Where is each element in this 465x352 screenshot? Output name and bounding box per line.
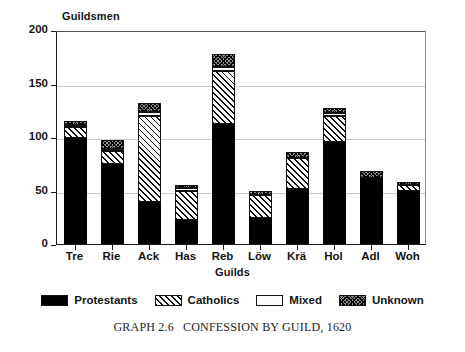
x-axis-tick-label-woh: Woh	[383, 250, 433, 262]
legend-label-mixed: Mixed	[289, 294, 322, 306]
bar-segment-protestants	[286, 189, 309, 244]
bar-segment-protestants	[138, 202, 161, 244]
bar-segment-unknown	[101, 140, 124, 149]
bar-segment-mixed	[212, 67, 235, 70]
bar-segment-unknown	[360, 171, 383, 177]
bar-segment-catholics	[101, 151, 124, 164]
bar-hol[interactable]	[323, 108, 346, 244]
bar-segment-catholics	[323, 116, 346, 143]
y-axis-tick-label: 200	[8, 23, 48, 35]
bar-segment-mixed	[101, 149, 124, 151]
bar-segment-protestants	[175, 220, 198, 244]
y-axis-tick-label: 50	[8, 184, 48, 196]
y-axis-tick-label: 150	[8, 77, 48, 89]
y-axis-tick-label: 0	[8, 237, 48, 249]
legend-label-catholics: Catholics	[188, 294, 240, 306]
bar-segment-mixed	[175, 188, 198, 190]
bar-segment-mixed	[138, 112, 161, 115]
bar-segment-mixed	[64, 125, 87, 127]
bar-segment-unknown	[64, 121, 87, 125]
bar-adl[interactable]	[360, 171, 383, 244]
figure-caption: GRAPH 2.6CONFESSION BY GUILD, 1620	[0, 320, 465, 335]
bar-reb[interactable]	[212, 54, 235, 244]
bar-segment-protestants	[212, 124, 235, 244]
bar-segment-unknown	[286, 152, 309, 158]
bar-segment-unknown	[397, 182, 420, 185]
bar-ack[interactable]	[138, 103, 161, 244]
bar-segment-protestants	[323, 142, 346, 244]
bar-has[interactable]	[175, 185, 198, 244]
bar-segment-protestants	[360, 178, 383, 244]
caption-graph-number: GRAPH 2.6	[113, 320, 173, 334]
bar-woh[interactable]	[397, 182, 420, 244]
legend-item-mixed[interactable]: Mixed	[256, 294, 322, 306]
chart-figure: Guildsmen 050100150200 TreRieAckHasRebLö…	[0, 0, 465, 352]
y-axis-tick-label: 100	[8, 130, 48, 142]
bar-tre[interactable]	[64, 121, 87, 244]
bar-segment-catholics	[175, 191, 198, 221]
bar-segment-protestants	[64, 138, 87, 244]
bar-segment-protestants	[397, 191, 420, 245]
bar-segment-catholics	[138, 116, 161, 203]
legend-label-unknown: Unknown	[372, 294, 424, 306]
x-axis-title: Guilds	[0, 266, 465, 278]
bar-segment-unknown	[249, 191, 272, 195]
gridline	[57, 86, 425, 87]
legend-item-unknown[interactable]: Unknown	[339, 294, 424, 306]
legend-item-catholics[interactable]: Catholics	[155, 294, 240, 306]
bar-segment-unknown	[138, 103, 161, 113]
bar-segment-catholics	[212, 71, 235, 125]
bar-segment-catholics	[249, 195, 272, 219]
legend-swatch-unknown	[339, 295, 366, 306]
legend-label-protestants: Protestants	[74, 294, 137, 306]
bar-segment-catholics	[397, 185, 420, 190]
bar-rie[interactable]	[101, 140, 124, 244]
bar-segment-mixed	[323, 113, 346, 115]
plot-area	[56, 31, 426, 245]
bar-segment-catholics	[286, 158, 309, 189]
y-axis-tick-mark	[51, 245, 56, 246]
bar-segment-catholics	[64, 127, 87, 138]
bar-segment-protestants	[249, 218, 272, 244]
legend-swatch-protestants	[41, 295, 68, 306]
bar-segment-unknown	[323, 108, 346, 113]
legend-swatch-catholics	[155, 295, 182, 306]
legend-swatch-mixed	[256, 295, 283, 306]
chart-legend: ProtestantsCatholicsMixedUnknown	[0, 290, 465, 310]
legend-item-protestants[interactable]: Protestants	[41, 294, 137, 306]
bar-segment-unknown	[175, 185, 198, 188]
bar-segment-protestants	[101, 164, 124, 244]
bar-segment-unknown	[212, 54, 235, 68]
caption-title: CONFESSION BY GUILD, 1620	[183, 320, 352, 334]
bar-löw[interactable]	[249, 191, 272, 245]
bar-krä[interactable]	[286, 152, 309, 244]
